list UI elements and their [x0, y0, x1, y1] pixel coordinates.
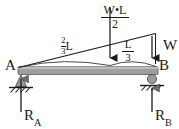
- reaction-a-label: RA: [24, 108, 41, 126]
- intensity-label: W: [163, 38, 177, 53]
- resultant-load-numerator: W•L: [100, 4, 130, 17]
- distance-left-label: 2 3 L: [61, 36, 73, 56]
- reaction-b-subscript: B: [165, 117, 172, 128]
- roller-circle: [147, 74, 156, 83]
- point-a-label: A: [5, 58, 16, 73]
- distance-right-label: L 3: [121, 39, 135, 63]
- diagram-canvas: W•L 2 2 3 L L 3 W A B RA RB: [0, 0, 179, 129]
- reaction-a-symbol: R: [24, 107, 34, 123]
- distance-right-numerator: L: [121, 39, 135, 51]
- beam-highlight: [18, 67, 158, 70]
- distance-left-unit: L: [66, 39, 73, 53]
- reaction-b-symbol: R: [155, 107, 165, 123]
- resultant-load-label: W•L 2: [100, 4, 130, 30]
- distance-right-denominator: 3: [121, 52, 135, 64]
- reaction-a-subscript: A: [34, 117, 41, 128]
- resultant-load-denominator: 2: [100, 18, 130, 31]
- point-b-label: B: [159, 58, 169, 73]
- ground-hatch-b: [142, 86, 162, 91]
- reaction-b-label: RB: [155, 108, 172, 126]
- beam-member: [18, 67, 158, 75]
- ground-hatch-a: [11, 88, 31, 93]
